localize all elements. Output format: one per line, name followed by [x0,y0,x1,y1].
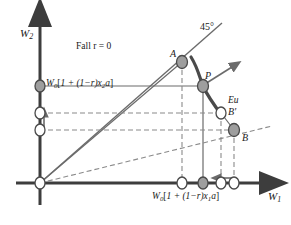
marker-y-level-upper [35,107,45,119]
point-label-B: B [242,133,248,143]
marker-x-level-P [198,177,208,189]
marker-origin [35,177,45,189]
marker-y-level-gray [35,80,45,92]
marker-point-Bprime [216,107,226,119]
marker-point-P [198,80,209,93]
regime-note: Fall r = 0 [76,42,111,52]
marker-point-B [229,124,240,137]
marker-point-A [177,56,188,69]
marker-y-level-lower [35,124,45,136]
point-label-P: P [205,71,211,81]
x-axis-label: W1 [268,191,281,204]
curve-label-eu: Eu [228,96,239,106]
marker-x-level-A [177,177,187,189]
y-axis-value-label: W0[1 + (1−r)x2a] [46,79,113,90]
point-label-Bprime: B' [228,107,236,117]
angle-45-label: 45° [200,22,214,32]
diagram-canvas [0,0,291,225]
y-axis-label: W2 [20,28,33,41]
point-label-A: A [170,49,176,59]
x-axis-value-label: W0[1 + (1−r)x1a] [152,192,219,203]
marker-x-level-Bprime [216,177,226,189]
state-preference-diagram: W2 W1 Fall r = 0 45° W0[1 + (1−r)x2a] W0… [0,0,291,225]
marker-x-level-B [229,177,239,189]
